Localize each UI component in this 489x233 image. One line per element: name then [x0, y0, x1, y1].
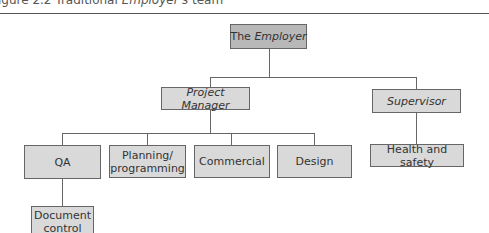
figure-caption: igure 2.2 Traditional Employer's team [0, 0, 223, 7]
caption-suffix: team [188, 0, 223, 7]
node-label: Document control [34, 209, 91, 233]
connector-root-down [269, 48, 270, 77]
node-document-control: Document control [31, 206, 94, 233]
node-commercial: Commercial [194, 145, 270, 178]
node-label: QA [54, 156, 70, 169]
node-label: Project Manager [162, 86, 249, 112]
node-label: Supervisor [387, 95, 446, 108]
caption-rule [0, 13, 489, 14]
node-label: Design [296, 155, 334, 168]
node-label: Health and safety [371, 143, 463, 169]
connector-design-up [314, 133, 315, 145]
connector-supervisor-up [416, 77, 417, 89]
connector-qa-down [62, 178, 63, 206]
node-employer-prefix: The [230, 30, 250, 43]
connector-pm-children-bar [62, 133, 315, 134]
node-employer-italic: Employer [254, 30, 306, 43]
connector-planning-up [147, 133, 148, 145]
node-planning: Planning/ programming [109, 145, 186, 178]
node-employer: The Employer [230, 24, 307, 49]
node-label: Commercial [199, 155, 265, 168]
node-project-manager: Project Manager [161, 87, 250, 110]
node-qa: QA [24, 145, 101, 179]
connector-commercial-up [231, 133, 232, 145]
connector-qa-up [62, 133, 63, 145]
node-health-safety: Health and safety [370, 144, 464, 167]
node-supervisor: Supervisor [372, 89, 461, 113]
connector-pm-down [210, 109, 211, 133]
connector-level1-bar [210, 77, 417, 78]
node-design: Design [277, 145, 352, 178]
caption-italic: Employer's [122, 0, 189, 7]
connector-supervisor-down [416, 112, 417, 144]
caption-text: igure 2.2 Traditional [0, 0, 122, 7]
node-label: Planning/ programming [110, 149, 185, 175]
